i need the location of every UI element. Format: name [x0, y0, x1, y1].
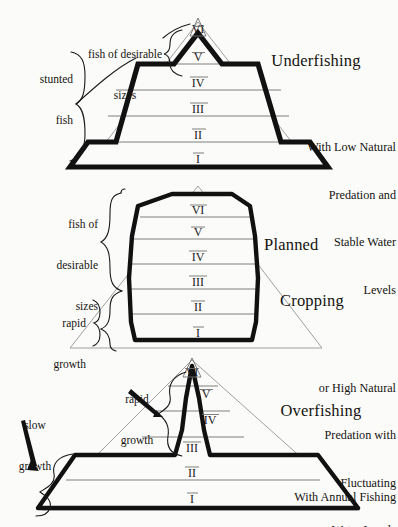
svg-text:VI: VI — [192, 22, 205, 36]
caption-head-planned: Planned — [258, 236, 396, 255]
numeral-VI-3: VI — [185, 365, 199, 379]
svg-text:II: II — [188, 466, 196, 480]
brace-desirable-sizes-2 — [101, 189, 125, 291]
svg-text:I: I — [190, 492, 194, 506]
numeral-IV-3: IV — [202, 413, 219, 427]
svg-text:III: III — [192, 275, 204, 289]
svg-text:IV: IV — [204, 413, 217, 427]
caption-sub-overfishing: With Annual Fishing Pressure Exceeding 1… — [246, 458, 396, 527]
svg-text:III: III — [186, 441, 198, 455]
label-stunted-fish-1: stunted fish — [0, 46, 73, 155]
caption-head-overfishing: Overfishing — [246, 402, 396, 421]
svg-text:II: II — [194, 128, 202, 142]
svg-text:I: I — [196, 152, 200, 166]
svg-text:IV: IV — [192, 76, 205, 90]
label-fish-of-desirable-sizes-1: fish of desirable sizes — [60, 21, 190, 130]
svg-text:I: I — [196, 326, 200, 340]
caption-head-cropping: Cropping — [258, 292, 396, 311]
caption-head-underfishing: Underfishing — [236, 52, 396, 71]
label-slow-growth-3: slow growth — [2, 392, 68, 501]
numeral-VI-1: VI — [192, 22, 205, 36]
svg-text:II: II — [194, 300, 202, 314]
svg-text:VI: VI — [186, 365, 199, 379]
caption-overfishing: Overfishing With Annual Fishing Pressure… — [246, 364, 396, 527]
label-rapid-growth-3: rapid growth — [104, 366, 170, 475]
svg-text:IV: IV — [192, 250, 205, 264]
svg-text:III: III — [192, 102, 204, 116]
label-rapid-growth-2: rapid growth — [6, 290, 86, 399]
numeral-IV-2: IV — [189, 250, 207, 264]
figure-canvas: .bold { fill:none; stroke:#111; stroke-w… — [0, 0, 398, 527]
numeral-V-3: V — [200, 387, 213, 401]
